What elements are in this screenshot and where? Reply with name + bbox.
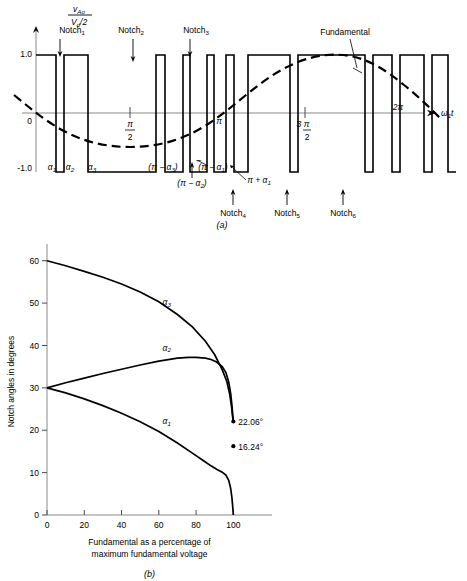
notch-1-annotation: Notch1 [58, 25, 86, 57]
angle-label-pi-minus-alpha2: (π − α2) [177, 178, 207, 189]
x-tick-label: 100 [226, 520, 240, 530]
endpoint-marker [231, 444, 235, 448]
y-tick-label: 50 [30, 298, 40, 308]
svg-text:Notch3: Notch3 [183, 25, 209, 36]
fundamental-sine-curve [14, 55, 442, 147]
chart-y-axis-title: Notch angles in degrees [6, 336, 16, 428]
curve-label-α2: α2 [163, 343, 172, 354]
fundamental-label: Fundamental [320, 27, 370, 37]
y-tick-label: 0 [34, 510, 39, 520]
fundamental-annotation: Fundamental [320, 27, 370, 73]
x-tick-label: 40 [117, 520, 127, 530]
curve-α2 [47, 357, 233, 421]
svg-text:Notch5: Notch5 [274, 208, 300, 219]
angle-label-alpha3: α3 [88, 162, 97, 173]
x-tick-label: 60 [154, 520, 164, 530]
x-tick-3pi-over-2-den: 2 [305, 132, 310, 142]
notch-5-annotation: Notch5 [274, 189, 300, 219]
curve-α1 [47, 388, 233, 515]
notch-4-label: Notch [220, 208, 242, 218]
angle-label-pi-minus-alpha1: (π − α1) [198, 162, 228, 173]
notch-angle-chart-svg: 0102030405060020406080100Notch angles in… [0, 230, 467, 581]
x-tick-label: 80 [191, 520, 201, 530]
x-tick-pi-over-2: π 2 [125, 107, 135, 142]
chart-x-axis-title-line1: Fundamental as a percentage of [88, 537, 211, 547]
notch-5-label: Notch [274, 208, 296, 218]
x-tick-2pi-label: 2π [392, 102, 404, 112]
y-tick-label: 40 [30, 341, 40, 351]
x-tick-label: 0 [45, 520, 50, 530]
svg-text:Notch4: Notch4 [220, 208, 246, 219]
chart-x-axis-title-line2: maximum fundamental voltage [92, 549, 208, 559]
angle-label-pi-plus-alpha1: π + α1 [247, 175, 271, 186]
x-tick-label: 20 [80, 520, 90, 530]
angle-label-alpha1: α1 [48, 162, 56, 173]
y-tick-label: 20 [30, 425, 40, 435]
endpoint-label: 22.06° [238, 417, 263, 427]
curve-label-α3: α3 [163, 297, 172, 308]
y-tick-pos1: 1.0 [20, 49, 32, 59]
waveform-svg: vAo Vd/2 ω1t 1.0 -1.0 0 π 2 π [0, 0, 467, 230]
y-tick-neg1: -1.0 [17, 163, 32, 173]
angle-label-pi-minus-alpha3: (π − α3) [148, 162, 178, 173]
notch-2-annotation: Notch2 [118, 25, 144, 62]
angle-label-alpha2: α2 [66, 162, 75, 173]
caption-panel-b: (b) [144, 569, 155, 579]
notch-2-label: Notch [118, 25, 140, 35]
endpoint-marker [231, 419, 235, 423]
notch-4-annotation: Notch4 [220, 189, 246, 219]
svg-text:Notch6: Notch6 [330, 208, 356, 219]
notch-1-label: Notch [59, 25, 81, 35]
notch-6-label: Notch [330, 208, 352, 218]
svg-text:Notch2: Notch2 [118, 25, 144, 36]
notch-3-annotation: Notch3 [183, 25, 209, 57]
endpoint-label: 16.24° [238, 442, 263, 452]
x-tick-pi-over-2-den: 2 [128, 132, 133, 142]
y-tick-label: 30 [30, 383, 40, 393]
caption-panel-a: (a) [217, 220, 228, 230]
x-tick-pi-over-2-num: π [127, 119, 133, 129]
y-tick-label: 60 [30, 256, 40, 266]
y-axis-num-sub: Ao [76, 8, 85, 15]
curve-label-α1: α1 [163, 416, 171, 427]
notch-6-annotation: Notch6 [330, 189, 356, 219]
figure-a-waveform: vAo Vd/2 ω1t 1.0 -1.0 0 π 2 π [0, 0, 467, 230]
notch-3-label: Notch [183, 25, 205, 35]
y-tick-label: 10 [30, 468, 40, 478]
origin-label: 0 [27, 116, 32, 126]
plot-area: 0102030405060020406080100Notch angles in… [6, 244, 272, 579]
x-tick-2pi: 2π [392, 102, 404, 112]
figure-b-chart: 0102030405060020406080100Notch angles in… [0, 230, 467, 581]
curve-α3 [47, 261, 233, 422]
svg-text:vAo: vAo [73, 4, 85, 15]
